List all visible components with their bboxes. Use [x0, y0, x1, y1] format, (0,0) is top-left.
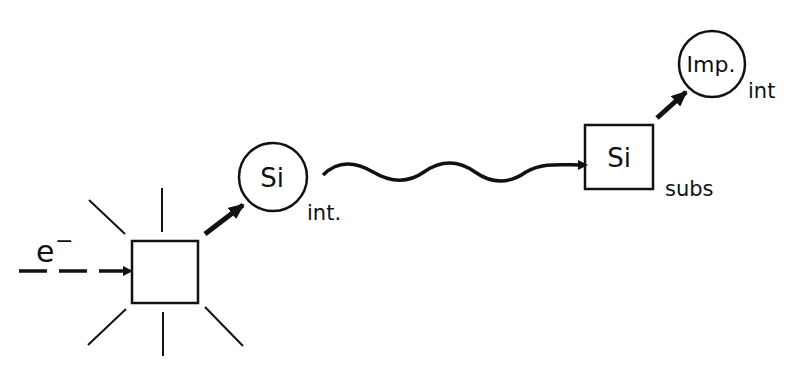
svg-text:−: −: [55, 228, 73, 253]
electron-label: e −: [36, 228, 73, 269]
svg-text:Si: Si: [260, 163, 284, 193]
svg-text:int.: int.: [307, 201, 341, 225]
arrow-to-imp-int: [657, 92, 686, 118]
si-subs-node: Si subs: [585, 125, 714, 201]
wavy-transfer-arrow: [323, 163, 586, 181]
impact-site-box: [132, 241, 198, 303]
imp-int-node: Imp. int: [679, 31, 775, 103]
svg-text:Imp.: Imp.: [687, 52, 736, 77]
diagram-canvas: e − Si int. Si subs Imp. int: [0, 0, 795, 375]
svg-text:e: e: [36, 234, 54, 269]
svg-text:int: int: [748, 79, 775, 103]
si-int-node: Si int.: [239, 143, 341, 225]
svg-text:subs: subs: [665, 177, 714, 201]
svg-text:Si: Si: [607, 143, 631, 173]
arrow-to-si-int: [205, 205, 243, 234]
